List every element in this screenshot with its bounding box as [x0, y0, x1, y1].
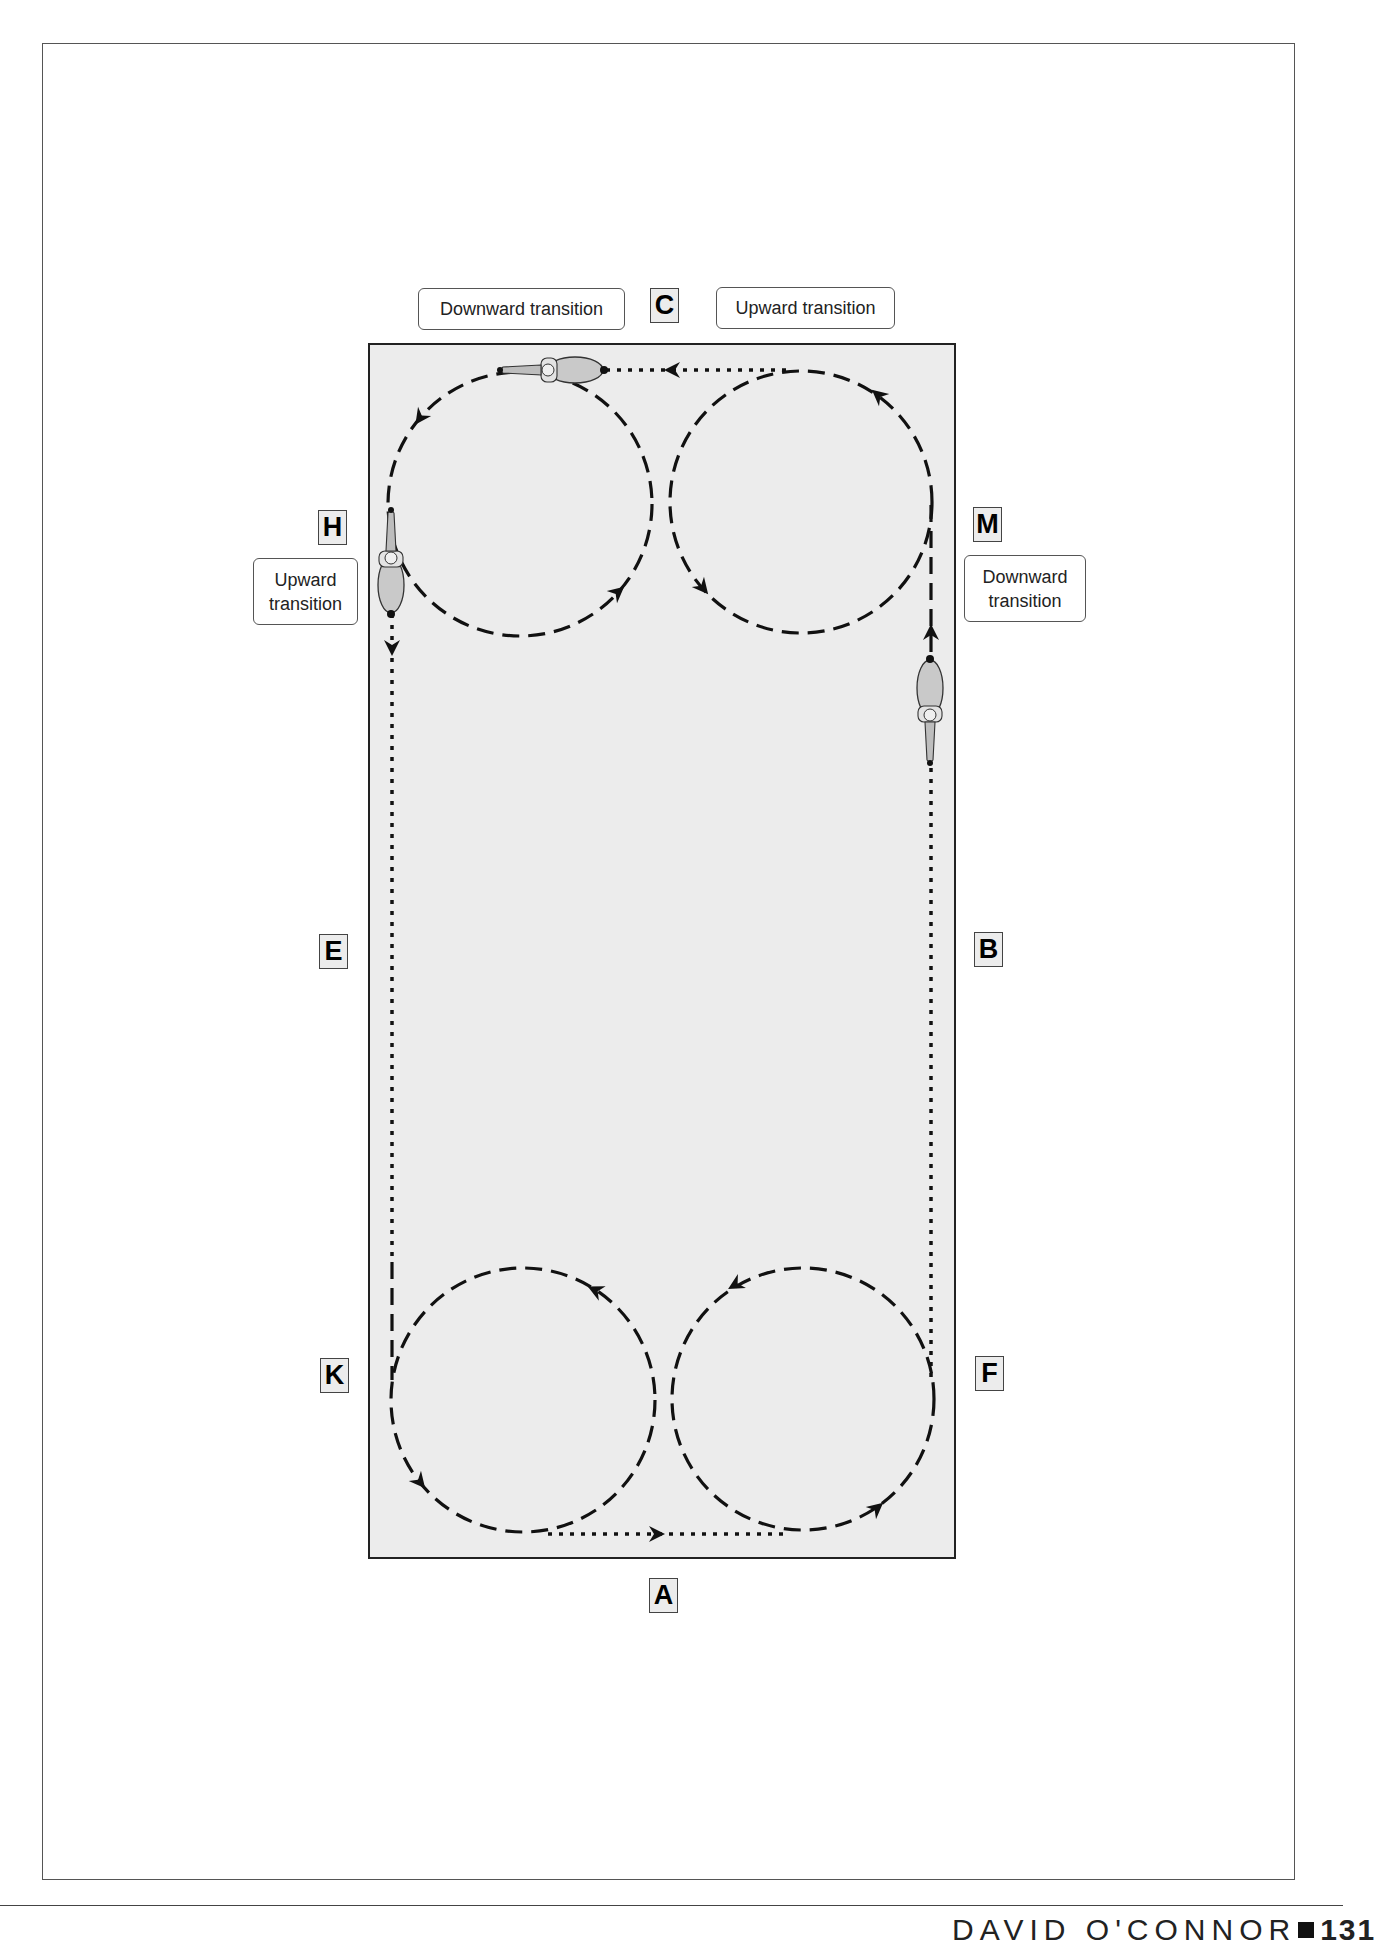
circle-bottom-left	[391, 1268, 655, 1532]
footer-divider	[0, 1905, 1343, 1906]
page-number: 131	[1320, 1913, 1376, 1944]
horse-rider-icon-left	[378, 507, 404, 618]
circle-top-right	[670, 371, 932, 633]
square-bullet-icon	[1298, 1922, 1314, 1938]
footer-author: DAVID O'CONNOR	[952, 1913, 1296, 1944]
horse-rider-icon-top	[497, 357, 608, 383]
circle-top-left	[388, 372, 652, 636]
horse-rider-icon-right	[917, 655, 943, 766]
direction-arrows	[384, 362, 939, 1542]
circle-bottom-right	[672, 1268, 934, 1530]
page-footer: DAVID O'CONNOR131	[952, 1915, 1376, 1944]
straight-paths	[392, 370, 931, 1534]
circle-paths	[388, 371, 934, 1532]
